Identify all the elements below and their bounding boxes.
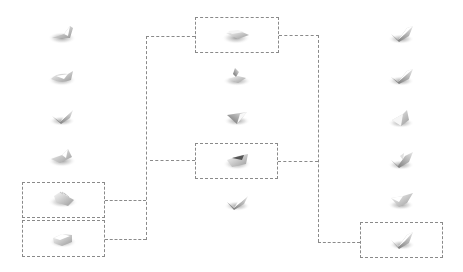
shape-right-3-icon	[385, 106, 419, 130]
connector-C1-to-right	[279, 35, 319, 36]
shape-center-5-icon	[220, 190, 254, 214]
shape-left-1-icon	[46, 22, 80, 46]
shape-center-2-icon	[220, 64, 254, 88]
shape-center-1-icon	[220, 22, 254, 46]
shape-left-3-icon	[46, 104, 80, 128]
shape-left-2-icon	[46, 64, 80, 88]
connector-left-to-C4	[150, 160, 195, 161]
connector-left-vertical	[146, 36, 147, 240]
shape-center-4-icon	[220, 148, 254, 172]
connector-left-to-C1	[146, 36, 195, 37]
shape-left-5-icon	[46, 186, 80, 210]
connector-L5-out	[105, 200, 146, 201]
connector-L6-out	[105, 239, 146, 240]
shape-right-4-icon	[385, 148, 419, 172]
shape-left-4-icon	[46, 145, 80, 169]
shape-center-3-icon	[220, 105, 254, 129]
shape-left-6-icon	[46, 226, 80, 250]
shape-right-2-icon	[385, 64, 419, 88]
shape-right-5-icon	[385, 188, 419, 212]
connector-right-to-R6	[318, 242, 360, 243]
shape-right-6-icon	[385, 228, 419, 252]
connector-right-vertical	[318, 35, 319, 242]
connector-C4-to-right	[278, 161, 318, 162]
shape-right-1-icon	[385, 22, 419, 46]
